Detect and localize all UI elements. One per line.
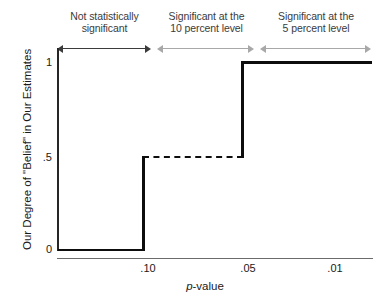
step-segment-belief-1 <box>241 61 372 64</box>
step-riser-at-p10 <box>142 156 145 251</box>
arrow-head-right-icon <box>248 45 254 53</box>
x-tick-label-05: .05 <box>228 262 268 274</box>
arrow-shaft <box>161 48 250 49</box>
x-axis-title: p-value <box>165 280 245 292</box>
y-axis-line <box>57 48 59 251</box>
step-segment-belief-0 <box>58 249 144 252</box>
annotation-label-significant-5: Significant at the 5 percent level <box>260 10 372 34</box>
x-axis-line <box>57 258 373 259</box>
x-tick-label-10: .10 <box>128 262 168 274</box>
chart-figure: Not statistically significant Significan… <box>0 0 390 299</box>
step-riser-at-p05 <box>241 61 244 158</box>
arrow-head-right-icon <box>365 45 371 53</box>
annotation-label-significant-10: Significant at the 10 percent level <box>155 10 258 34</box>
annotation-arrow-significant-10 <box>157 43 254 54</box>
annotation-label-not-significant: Not statistically significant <box>52 10 157 34</box>
annotation-arrow-not-significant <box>57 43 151 54</box>
x-tick-label-01: .01 <box>315 262 355 274</box>
arrow-shaft <box>264 48 367 49</box>
arrow-head-right-icon <box>145 45 151 53</box>
x-axis-title-suffix: -value <box>193 280 224 292</box>
arrow-shaft <box>61 48 147 49</box>
annotation-arrow-significant-5 <box>260 43 371 54</box>
y-axis-title: Our Degree of "Belief" in Our Estimates <box>21 49 33 250</box>
step-segment-belief-05-dashed <box>143 156 243 158</box>
